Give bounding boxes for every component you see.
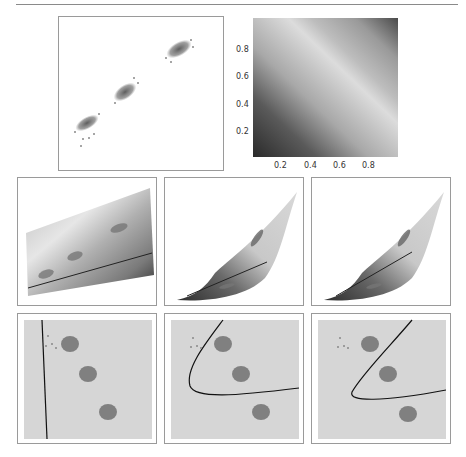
curved-boundary-panel-2 bbox=[311, 313, 451, 444]
cluster-high bbox=[163, 36, 194, 63]
cluster-mid bbox=[110, 77, 139, 105]
y-tick: 0.8 bbox=[236, 46, 249, 54]
classification-plot bbox=[312, 314, 452, 445]
curved-embedding-panel-1 bbox=[164, 177, 304, 306]
curved-surface bbox=[165, 178, 305, 307]
scatter-plot bbox=[59, 17, 225, 172]
x-tick: 0.4 bbox=[304, 162, 317, 170]
planar-surface bbox=[18, 178, 158, 307]
curved-surface bbox=[312, 178, 452, 307]
curved-boundary-panel-1 bbox=[164, 313, 304, 444]
x-tick: 0.6 bbox=[333, 162, 346, 170]
cluster-low bbox=[73, 111, 102, 147]
heatmap-panel: 0.8 0.6 0.4 0.2 0.2 0.4 0.6 0.8 bbox=[230, 14, 410, 176]
y-tick: 0.4 bbox=[236, 101, 249, 109]
classification-plot bbox=[18, 314, 158, 445]
y-tick: 0.6 bbox=[236, 73, 249, 81]
classification-plot bbox=[165, 314, 305, 445]
y-tick: 0.2 bbox=[236, 128, 249, 136]
heatmap-image bbox=[230, 14, 410, 176]
curved-embedding-panel-2 bbox=[311, 177, 451, 306]
planar-embedding-panel bbox=[17, 177, 157, 306]
scatter-panel bbox=[58, 16, 224, 171]
x-tick: 0.2 bbox=[274, 162, 287, 170]
top-rule bbox=[16, 4, 458, 5]
linear-boundary-panel bbox=[17, 313, 157, 444]
x-tick: 0.8 bbox=[362, 162, 375, 170]
